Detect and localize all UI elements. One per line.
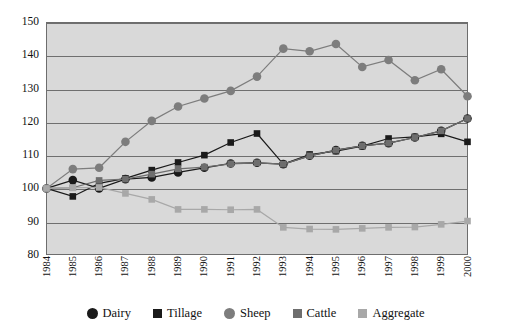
data-point: [333, 147, 340, 154]
x-axis-tick-label: 1986: [94, 256, 105, 277]
circle-marker-icon: [87, 308, 98, 319]
data-point: [43, 185, 50, 192]
data-point: [464, 115, 471, 122]
x-axis-tick-label: 1988: [147, 256, 158, 277]
legend-item-dairy[interactable]: Dairy: [87, 307, 131, 320]
data-point: [147, 117, 156, 126]
x-axis-tick-label: 1989: [173, 256, 184, 277]
data-point: [148, 171, 155, 178]
x-axis-tick-label: 1999: [436, 256, 447, 277]
square-marker-icon: [293, 309, 302, 318]
series-dairy: [42, 114, 472, 193]
circle-marker-icon: [224, 308, 235, 319]
series-layer: [46, 22, 468, 255]
data-point: [201, 152, 208, 159]
data-point: [227, 139, 234, 146]
y-axis-tick-label: 130: [22, 83, 39, 95]
series-sheep: [42, 40, 472, 193]
x-axis-tick-label: 2000: [462, 256, 473, 277]
data-point: [305, 47, 314, 56]
legend-item-tillage[interactable]: Tillage: [153, 307, 202, 320]
y-axis-tick-label: 110: [22, 149, 39, 161]
data-point: [227, 206, 234, 213]
data-point: [227, 160, 234, 167]
data-point: [174, 102, 183, 111]
data-point: [96, 177, 103, 184]
data-point: [253, 72, 262, 81]
data-point: [122, 176, 129, 183]
series-line: [47, 119, 468, 189]
y-axis-tick-label: 80: [28, 249, 40, 261]
data-point: [70, 184, 77, 191]
series-cattle: [43, 115, 471, 192]
data-point: [95, 163, 104, 172]
data-point: [96, 184, 103, 191]
data-point: [280, 161, 287, 168]
data-point: [201, 206, 208, 213]
legend-item-label: Cattle: [307, 307, 337, 320]
data-point: [254, 159, 261, 166]
series-aggregate: [43, 184, 471, 233]
data-point: [69, 165, 78, 174]
x-axis-tick-label: 1987: [120, 256, 131, 277]
legend-item-label: Tillage: [167, 307, 202, 320]
series-line: [47, 119, 468, 189]
chart-container: 1501401301201101009080 19841985198619871…: [0, 0, 511, 334]
legend-item-label: Dairy: [103, 307, 131, 320]
legend-item-label: Aggregate: [372, 307, 424, 320]
legend-item-aggregate[interactable]: Aggregate: [358, 307, 424, 320]
data-point: [359, 143, 366, 150]
x-axis-tick-label: 1995: [331, 256, 342, 277]
x-axis-tick-label: 1993: [278, 256, 289, 277]
data-point: [306, 153, 313, 160]
data-point: [175, 159, 182, 166]
y-axis-tick-label: 150: [22, 16, 39, 28]
x-axis: 1984198519861987198819891990199119921993…: [46, 256, 468, 298]
x-axis-tick-label: 1992: [252, 256, 263, 277]
data-point: [226, 87, 235, 96]
y-axis-tick-label: 140: [22, 50, 39, 62]
data-point: [384, 56, 393, 65]
data-point: [464, 218, 471, 225]
legend-item-label: Sheep: [240, 307, 271, 320]
data-point: [438, 221, 445, 228]
x-axis-tick-label: 1991: [225, 256, 236, 277]
data-point: [358, 63, 367, 72]
data-point: [69, 176, 78, 185]
data-point: [280, 224, 287, 231]
legend-item-cattle[interactable]: Cattle: [293, 307, 337, 320]
data-point: [332, 40, 341, 49]
data-point: [121, 138, 130, 147]
square-marker-icon: [358, 309, 367, 318]
data-point: [175, 165, 182, 172]
data-point: [463, 92, 472, 101]
x-axis-tick-label: 1994: [304, 256, 315, 277]
y-axis-tick-label: 90: [28, 216, 40, 228]
legend-item-sheep[interactable]: Sheep: [224, 307, 271, 320]
data-point: [333, 226, 340, 233]
data-point: [359, 225, 366, 232]
data-point: [201, 164, 208, 171]
y-axis: 1501401301201101009080: [0, 22, 44, 255]
data-point: [175, 206, 182, 213]
data-point: [412, 224, 419, 231]
data-point: [254, 130, 261, 137]
square-marker-icon: [153, 309, 162, 318]
x-axis-tick-label: 1998: [410, 256, 421, 277]
data-point: [412, 134, 419, 141]
x-axis-tick-label: 1990: [199, 256, 210, 277]
x-axis-tick-label: 1996: [357, 256, 368, 277]
data-point: [437, 65, 446, 74]
data-point: [122, 190, 129, 197]
y-axis-tick-label: 100: [22, 183, 39, 195]
data-point: [306, 226, 313, 233]
y-axis-tick-label: 120: [22, 116, 39, 128]
data-point: [148, 196, 155, 203]
data-point: [385, 140, 392, 147]
data-point: [438, 128, 445, 135]
chart-legend: DairyTillageSheepCattleAggregate: [0, 300, 511, 326]
data-point: [279, 44, 288, 53]
data-point: [385, 224, 392, 231]
data-point: [464, 139, 471, 146]
data-point: [200, 94, 209, 103]
